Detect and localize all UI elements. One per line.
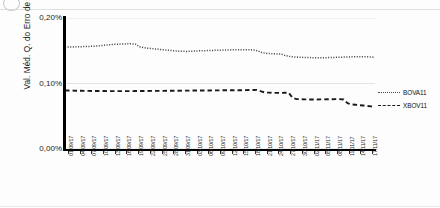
legend-label: BOVA11 bbox=[403, 89, 427, 96]
x-axis-tick-label: 02/11/17 bbox=[314, 136, 320, 156]
y-axis-tick-label: 0,00% bbox=[39, 144, 62, 153]
x-axis-tick-label: 14/11/17 bbox=[360, 136, 366, 156]
y-axis-tick-label: 0,10% bbox=[39, 79, 62, 88]
x-axis-tick-label: 21/10/17 bbox=[267, 136, 273, 156]
plot-area bbox=[65, 18, 375, 149]
x-axis-tick-label: 09/10/17 bbox=[220, 136, 226, 156]
y-axis-line bbox=[63, 16, 66, 151]
x-axis-tick-label: 28/09/17 bbox=[173, 136, 179, 156]
x-axis-tick-label: 06/10/17 bbox=[208, 136, 214, 156]
x-axis-tick-label: 15/10/17 bbox=[243, 136, 249, 156]
x-axis-tick-label: 19/09/17 bbox=[138, 136, 144, 156]
x-axis-tick-label: 24/10/17 bbox=[278, 136, 284, 156]
x-axis-tick-label: 31/09/17 bbox=[185, 136, 191, 156]
x-axis-tick-label: 30/10/17 bbox=[302, 136, 308, 156]
gridlines bbox=[65, 18, 375, 149]
y-axis-tick-labels: 0,20%0,10%0,00% bbox=[26, 0, 62, 208]
legend-item-xbov11: XBOV11 bbox=[378, 99, 440, 112]
x-axis-tick-label: 12/10/17 bbox=[232, 136, 238, 156]
series-canvas bbox=[65, 18, 375, 149]
x-axis-tick-label: 04/09/17 bbox=[80, 136, 86, 156]
x-axis-tick-label: 13/09/17 bbox=[115, 136, 121, 156]
x-axis-tick-label: 10/09/17 bbox=[103, 136, 109, 156]
chart-legend: BOVA11 XBOV11 bbox=[378, 86, 440, 112]
scan-edge-top bbox=[0, 9, 440, 10]
x-axis-tick-label: 01/09/17 bbox=[68, 136, 74, 156]
legend-line-sample-dotted-icon bbox=[378, 92, 400, 94]
x-axis-tick-label: 22/09/17 bbox=[150, 136, 156, 156]
x-axis-tick-label: 27/10/17 bbox=[290, 136, 296, 156]
x-axis-tick-label: 18/10/17 bbox=[255, 136, 261, 156]
x-axis-tick-label: 16/09/17 bbox=[126, 136, 132, 156]
legend-label: XBOV11 bbox=[403, 102, 427, 109]
x-axis-tick-label: 17/11/17 bbox=[372, 136, 378, 156]
series-line-bova11 bbox=[65, 44, 375, 58]
legend-line-sample-dashed-icon bbox=[378, 105, 400, 107]
x-axis-tick-label: 11/11/17 bbox=[349, 137, 355, 156]
x-axis-tick-label: 08/11/17 bbox=[337, 136, 343, 156]
legend-item-bova11: BOVA11 bbox=[378, 86, 440, 99]
chart-figure: Val. Méd. Q. do Erro de Acomp. 0,20%0,10… bbox=[0, 0, 440, 208]
x-axis-tick-label: 25/09/17 bbox=[162, 136, 168, 156]
y-axis-tick-label: 0,20% bbox=[39, 13, 62, 22]
data-series-group bbox=[65, 44, 375, 107]
x-axis-tick-label: 03/10/17 bbox=[197, 136, 203, 156]
x-axis-tick-label: 07/09/17 bbox=[91, 136, 97, 156]
x-axis-tick-labels: 01/09/1704/09/1707/09/1710/09/1713/09/17… bbox=[65, 151, 375, 208]
x-axis-tick-label: 05/11/17 bbox=[325, 136, 331, 156]
series-line-xbov11 bbox=[65, 90, 375, 107]
